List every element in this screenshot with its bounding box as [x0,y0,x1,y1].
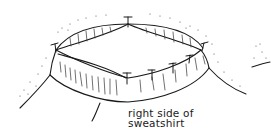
sweatshirt-right-edge [209,68,246,94]
pin-icon [148,70,155,80]
neckband-left-side [50,50,56,75]
neckband-front-top [56,50,201,78]
pin-icon [123,73,131,84]
sweatshirt-far-right-edge [252,62,270,67]
caption-leader-line [92,103,100,121]
pins [51,17,208,84]
neckband-right-side [201,50,209,68]
fabric-stipple [19,13,266,96]
caption-line-2: sweatshirt [128,118,194,128]
sweatshirt-left-edge [20,75,50,108]
caption-label: right side of sweatshirt [128,108,194,128]
